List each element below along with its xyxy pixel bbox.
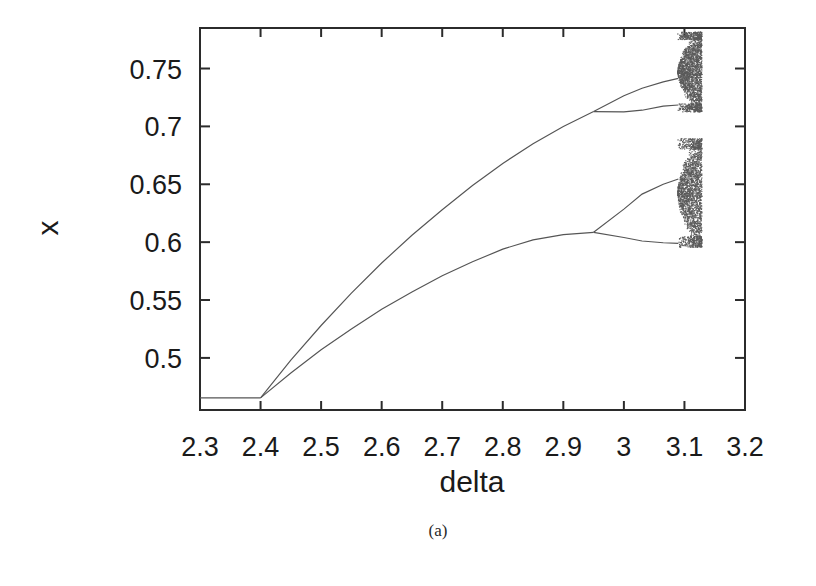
chaos-point (695, 77, 696, 78)
chaos-point (691, 235, 692, 236)
bifurcation-figure: 2.32.42.52.62.72.82.933.13.2 0.50.550.60… (0, 0, 816, 586)
chaos-point (693, 91, 694, 92)
chaos-point (687, 190, 688, 191)
chaos-point (697, 153, 698, 154)
chaos-point (687, 109, 688, 110)
chaos-point (688, 175, 689, 176)
chaos-point (694, 82, 695, 83)
chaos-point (688, 73, 689, 74)
chaos-point (697, 159, 698, 160)
chaos-point (688, 64, 689, 65)
chaos-point (688, 210, 689, 211)
chaos-point (701, 243, 702, 244)
chaos-point (689, 208, 690, 209)
chaos-point (684, 179, 685, 180)
chaos-point (690, 59, 691, 60)
chaos-point (694, 237, 695, 238)
chaos-point (690, 158, 691, 159)
chaos-point (697, 43, 698, 44)
chaos-point (689, 63, 690, 64)
chaos-point (696, 98, 697, 99)
chaos-point (681, 78, 682, 79)
chaos-point (684, 91, 685, 92)
chaos-point (691, 68, 692, 69)
chaos-point (684, 181, 685, 182)
chaos-point (685, 207, 686, 208)
chaos-point (696, 200, 697, 201)
chaos-point (701, 173, 702, 174)
chaos-point (700, 216, 701, 217)
chaos-point (694, 95, 695, 96)
chaos-point (687, 211, 688, 212)
chaos-point (687, 84, 688, 85)
chaos-point (691, 35, 692, 36)
chaos-point (693, 32, 694, 33)
chaos-point (689, 42, 690, 43)
chaos-point (701, 194, 702, 195)
chaos-point (695, 94, 696, 95)
chaos-point (693, 66, 694, 67)
chaos-point (698, 170, 699, 171)
chaos-point (701, 97, 702, 98)
chaos-point (700, 157, 701, 158)
chaos-point (700, 53, 701, 54)
chaos-point (698, 97, 699, 98)
chaos-point (686, 243, 687, 244)
chaos-point (684, 211, 685, 212)
chaos-point (678, 186, 679, 187)
chaos-point (697, 91, 698, 92)
chaos-point (691, 57, 692, 58)
chaos-point (686, 67, 687, 68)
chaos-point (693, 184, 694, 185)
chaos-point (688, 179, 689, 180)
chaos-point (679, 197, 680, 198)
chaos-point (701, 223, 702, 224)
chaos-point (694, 92, 695, 93)
chaos-point (686, 172, 687, 173)
chaos-point (695, 234, 696, 235)
chaos-point (701, 46, 702, 47)
x-tick-label: 2.4 (242, 432, 280, 462)
chaos-point (695, 223, 696, 224)
chaos-point (697, 38, 698, 39)
chaos-point (684, 74, 685, 75)
chaos-point (697, 54, 698, 55)
chaos-point (699, 42, 700, 43)
chaos-point (696, 190, 697, 191)
chaos-point (690, 197, 691, 198)
chaos-point (685, 160, 686, 161)
chaos-point (690, 238, 691, 239)
chaos-point (681, 213, 682, 214)
chaos-point (692, 83, 693, 84)
chaos-point (680, 73, 681, 74)
chaos-point (690, 36, 691, 37)
chaos-point (686, 33, 687, 34)
chaos-point (700, 239, 701, 240)
chaos-point (696, 166, 697, 167)
chaos-point (701, 174, 702, 175)
chaos-point (699, 87, 700, 88)
chaos-point (681, 201, 682, 202)
chaos-point (698, 58, 699, 59)
chaos-point (698, 153, 699, 154)
chaos-point (689, 181, 690, 182)
chaos-point (695, 54, 696, 55)
chaos-point (701, 239, 702, 240)
chaos-point (684, 162, 685, 163)
chaos-point (697, 100, 698, 101)
chaos-point (683, 175, 684, 176)
chaos-point (687, 60, 688, 61)
chaos-point (699, 232, 700, 233)
chaos-point (698, 51, 699, 52)
chaos-point (689, 32, 690, 33)
chaos-point (688, 239, 689, 240)
chaos-point (686, 73, 687, 74)
chaos-point (695, 232, 696, 233)
chaos-point (693, 159, 694, 160)
chaos-point (684, 183, 685, 184)
chaos-point (696, 221, 697, 222)
chaos-point (686, 60, 687, 61)
chaos-point (697, 219, 698, 220)
chaos-point (680, 184, 681, 185)
chaos-point (680, 176, 681, 177)
